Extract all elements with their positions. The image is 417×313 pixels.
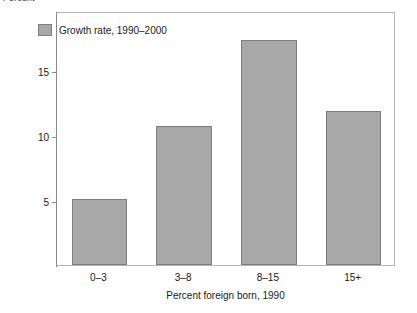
bar [326,111,382,265]
y-axis-tick-label: 10 [38,131,49,142]
x-axis-tick-label: 15+ [344,272,361,283]
y-axis-tick-mark [52,202,57,203]
x-axis-tick-label: 0–3 [90,272,107,283]
y-axis-line [56,12,57,267]
y-axis-tick-label: 5 [43,196,49,207]
legend-label-growth-rate: Growth rate, 1990–2000 [59,25,167,36]
y-axis-tick-label: 15 [38,66,49,77]
y-axis-tick-mark [52,72,57,73]
chart-legend: Growth rate, 1990–2000 [38,24,167,36]
bar [156,126,212,265]
bar [241,40,297,265]
y-axis-unit-label: Percent [3,0,35,3]
x-axis-tick-label: 8–15 [257,272,279,283]
plot-area: 51015 [57,13,394,265]
bar-chart-figure: Percent 51015 0–33–88–1515+ Percent fore… [0,0,417,313]
plot-frame: 51015 [56,12,395,266]
y-axis-tick-mark [52,137,57,138]
legend-swatch-growth-rate [38,24,52,36]
bar [72,199,128,265]
x-axis-title: Percent foreign born, 1990 [56,290,395,301]
x-axis-tick-label: 3–8 [175,272,192,283]
